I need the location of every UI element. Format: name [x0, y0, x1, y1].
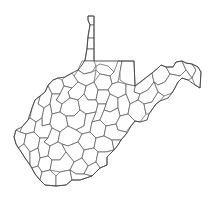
county-64 [40, 170, 56, 186]
county-5 [96, 64, 114, 76]
county-0 [88, 16, 94, 25]
county-7 [120, 61, 135, 86]
county-boundaries [14, 16, 201, 186]
west-virginia-county-map [0, 0, 211, 206]
county-65 [56, 170, 72, 186]
